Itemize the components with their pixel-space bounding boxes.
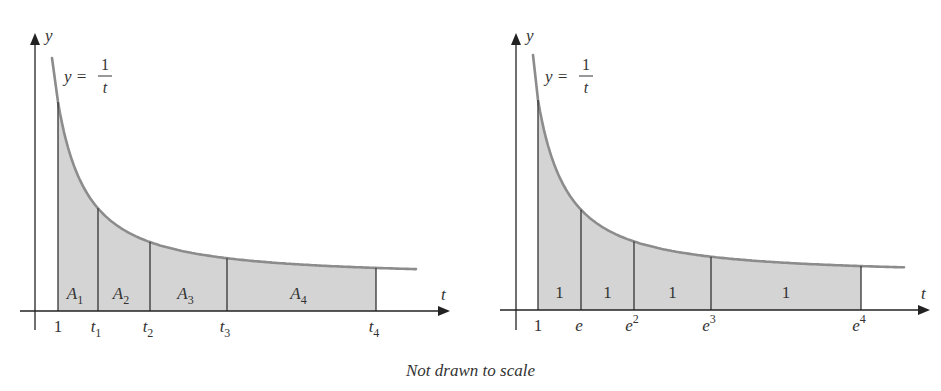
tick-superscript: 3 [710,312,716,326]
equation-numerator: 1 [582,56,590,73]
tick-label: 1 [534,316,543,335]
tick-subscript: 1 [95,326,101,340]
y-axis-label: y [43,26,53,45]
equation-lhs: y = [543,67,568,86]
tick-subscript: 2 [147,326,153,340]
tick-superscript: 2 [633,312,639,326]
y-axis-arrow-icon [511,33,521,45]
tick-label: 1 [54,317,63,336]
shaded-area [538,100,861,310]
region-label: 1 [782,283,791,302]
x-axis-arrow-icon [438,306,450,316]
panel-left: yty =1t1t1t2t3t4A1A2A3A4 [20,26,450,340]
region-label: 1 [555,283,564,302]
region-subscript: 4 [301,293,307,307]
tick-subscript: 3 [224,326,230,340]
shaded-area [58,102,376,311]
x-axis-label: t [921,284,927,303]
x-axis-arrow-icon [918,305,930,315]
panel-right: yty =1t1ee2e3e41111 [500,26,930,335]
tick-label: e4 [852,312,866,335]
figure: yty =1t1t1t2t3t4A1A2A3A4yty =1t1ee2e3e41… [0,0,941,391]
y-axis-arrow-icon [30,33,40,45]
tick-label: t1 [91,317,102,340]
equation-denominator: t [103,79,108,96]
tick-label: t3 [220,317,231,340]
tick-label: t2 [143,317,154,340]
equation-numerator: 1 [101,56,109,73]
equation-label: y =1t [62,56,112,96]
tick-label: e [575,316,583,335]
region-label: 1 [603,283,612,302]
y-axis-label: y [524,26,534,45]
tick-label: e3 [702,312,716,335]
tick-label: t4 [369,317,380,340]
region-subscript: 1 [77,293,83,307]
equation-lhs: y = [62,67,87,86]
x-axis-label: t [441,285,447,304]
region-subscript: 2 [123,293,129,307]
tick-subscript: 4 [373,326,379,340]
region-label: 1 [668,283,677,302]
equation-denominator: t [584,79,589,96]
tick-label: e2 [625,312,639,335]
tick-superscript: 4 [860,312,866,326]
equation-label: y =1t [543,56,593,96]
caption: Not drawn to scale [0,361,941,381]
region-subscript: 3 [188,293,194,307]
